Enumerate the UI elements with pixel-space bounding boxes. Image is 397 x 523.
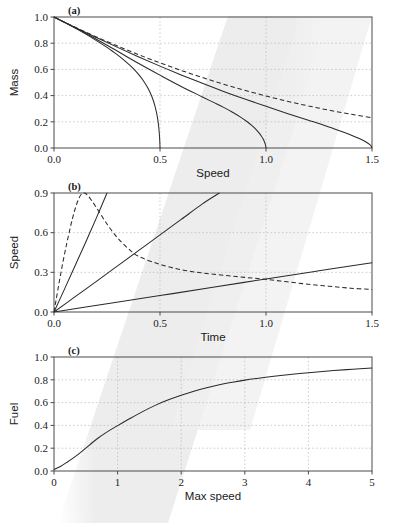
- multi-panel-figure: 0.00.51.01.50.00.20.40.60.81.0SpeedMass(…: [0, 0, 397, 523]
- panel-label: (a): [68, 5, 81, 17]
- x-tick-label: 1.0: [259, 153, 273, 165]
- x-tick-label: 0.5: [153, 153, 167, 165]
- y-tick-label: 0.8: [34, 374, 48, 386]
- y-axis-title: Fuel: [8, 403, 20, 425]
- x-tick-label: 3: [242, 476, 248, 488]
- y-tick-label: 0.9: [34, 187, 48, 199]
- x-tick-label: 5: [369, 476, 375, 488]
- y-tick-label: 0.2: [34, 442, 48, 454]
- x-axis-title: Max speed: [185, 490, 241, 502]
- y-tick-label: 1.0: [34, 11, 48, 23]
- y-tick-label: 0.2: [34, 116, 48, 128]
- y-tick-label: 0.8: [34, 37, 48, 49]
- x-axis-title: Speed: [196, 167, 229, 179]
- y-tick-label: 0.0: [34, 306, 48, 318]
- y-tick-label: 0.0: [34, 142, 48, 154]
- y-tick-label: 0.0: [34, 465, 48, 477]
- y-tick-label: 0.6: [34, 226, 48, 238]
- x-tick-label: 1.5: [365, 317, 379, 329]
- x-tick-label: 0: [51, 476, 57, 488]
- x-tick-label: 0.5: [153, 317, 167, 329]
- x-tick-label: 1.0: [259, 317, 273, 329]
- x-tick-label: 0.0: [47, 317, 61, 329]
- y-axis-title: Mass: [8, 69, 20, 97]
- x-axis-title: Time: [200, 331, 225, 343]
- x-tick-label: 2: [178, 476, 184, 488]
- x-tick-label: 0.0: [47, 153, 61, 165]
- x-tick-label: 1: [115, 476, 121, 488]
- y-axis-title: Speed: [8, 236, 20, 269]
- y-tick-label: 0.3: [34, 266, 48, 278]
- panel-label: (c): [68, 345, 80, 357]
- y-tick-label: 0.6: [34, 63, 48, 75]
- y-tick-label: 0.6: [34, 396, 48, 408]
- figure-container: 0.00.51.01.50.00.20.40.60.81.0SpeedMass(…: [0, 0, 397, 523]
- x-tick-label: 4: [306, 476, 312, 488]
- y-tick-label: 0.4: [34, 419, 48, 431]
- x-tick-label: 1.5: [365, 153, 379, 165]
- y-tick-label: 1.0: [34, 351, 48, 363]
- y-tick-label: 0.4: [34, 89, 48, 101]
- panel-label: (b): [68, 181, 81, 193]
